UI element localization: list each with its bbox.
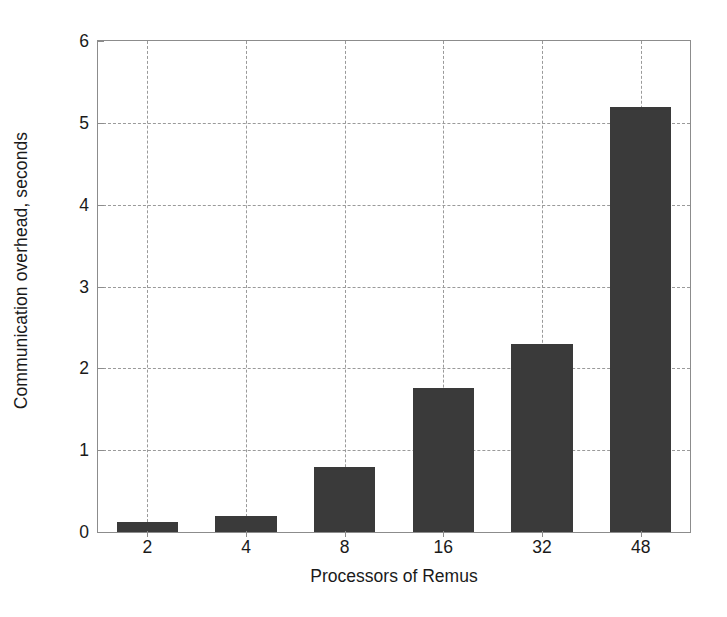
x-axis-label: Processors of Remus xyxy=(97,566,691,587)
bar-8 xyxy=(314,467,375,532)
y-tick-mark xyxy=(98,450,104,451)
gridline-horizontal xyxy=(98,368,690,369)
x-tick-label: 8 xyxy=(340,537,350,558)
x-tick-label: 16 xyxy=(434,537,453,558)
y-tick-label: 1 xyxy=(49,440,89,461)
gridline-vertical xyxy=(246,41,247,532)
y-tick-label: 4 xyxy=(49,194,89,215)
gridline-vertical xyxy=(345,41,346,532)
bar-chart-figure: Communication overhead, seconds 0123456 … xyxy=(0,0,727,617)
bar-32 xyxy=(511,344,572,532)
bar-4 xyxy=(215,516,276,532)
y-tick-label: 2 xyxy=(49,358,89,379)
y-tick-mark xyxy=(98,41,104,42)
y-axis-label: Communication overhead, seconds xyxy=(12,131,33,408)
y-tick-label: 5 xyxy=(49,112,89,133)
y-tick-mark xyxy=(98,123,104,124)
gridline-horizontal xyxy=(98,205,690,206)
y-axis-ticks: 0123456 xyxy=(45,40,89,533)
x-tick-label: 48 xyxy=(631,537,650,558)
x-tick-label: 4 xyxy=(241,537,251,558)
y-tick-mark xyxy=(98,205,104,206)
bar-48 xyxy=(610,107,671,532)
y-tick-mark xyxy=(98,368,104,369)
y-tick-label: 6 xyxy=(49,31,89,52)
plot-inner xyxy=(98,41,690,532)
gridline-horizontal xyxy=(98,450,690,451)
y-tick-mark xyxy=(98,287,104,288)
x-axis-ticks: 248163248 xyxy=(97,537,691,567)
gridline-horizontal xyxy=(98,123,690,124)
plot-area xyxy=(97,40,691,533)
gridline-vertical xyxy=(147,41,148,532)
y-tick-mark xyxy=(98,532,104,533)
y-axis-label-container: Communication overhead, seconds xyxy=(0,0,44,540)
y-tick-label: 0 xyxy=(49,522,89,543)
y-tick-label: 3 xyxy=(49,276,89,297)
gridline-horizontal xyxy=(98,287,690,288)
x-tick-label: 2 xyxy=(142,537,152,558)
x-tick-label: 32 xyxy=(532,537,551,558)
bar-16 xyxy=(413,388,474,532)
